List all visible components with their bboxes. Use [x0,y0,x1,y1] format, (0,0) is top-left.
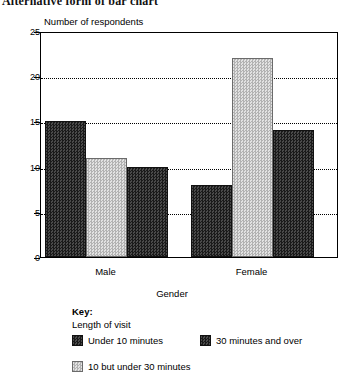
plot-area [40,32,338,258]
key-row-second: 10 but under 30 minutes [72,361,131,379]
bar [191,185,232,257]
bar [232,58,273,257]
document-heading: Alternative form of bar chart [2,0,158,9]
key-swatch-dark-icon [72,335,83,346]
key-row-first: Under 10 minutes 30 minutes and over [72,335,131,353]
key-entry-10-but-under-30-minutes: 10 but under 30 minutes [72,361,190,372]
key-title: Key: [72,306,131,317]
key-swatch-light-icon [72,361,83,372]
category-label: Male [44,266,167,277]
key-swatch-dark-icon [200,335,211,346]
y-tick-mark [34,258,40,259]
bar [86,158,127,257]
bar-group [41,33,337,257]
key-entry-label: 30 minutes and over [216,335,302,346]
bar [273,130,314,257]
x-axis-label: Gender [0,288,344,299]
bar [127,167,168,257]
key-subtitle: Length of visit [72,319,131,330]
category-label: Female [190,266,313,277]
key-entry-30-minutes-and-over: 30 minutes and over [200,335,302,346]
key-entry-label: Under 10 minutes [88,335,163,346]
y-axis-label: Number of respondents [44,16,143,27]
chart-page: Alternative form of bar chart Number of … [0,0,344,392]
bar [45,121,86,257]
chart-key: Key: Length of visit Under 10 minutes 30… [72,306,131,379]
key-entry-label: 10 but under 30 minutes [88,361,190,372]
key-entry-under-10-minutes: Under 10 minutes [72,335,163,346]
